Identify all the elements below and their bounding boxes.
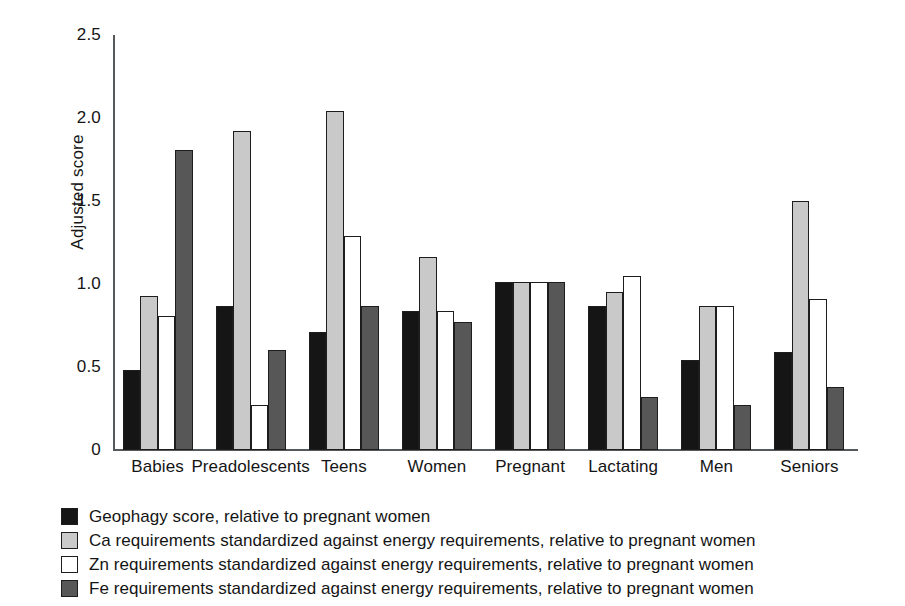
bar [454, 322, 472, 450]
y-axis-line [113, 35, 115, 451]
y-tick-label: 2.5 [41, 26, 101, 43]
bar [326, 111, 344, 450]
bar-chart-figure: Adjusted score 00.51.01.52.02.5 BabiesPr… [0, 0, 905, 606]
bar [734, 405, 752, 450]
bar [792, 201, 810, 450]
bar [175, 150, 193, 450]
bar [437, 311, 455, 450]
bar [309, 332, 327, 450]
y-tick-label: 2.0 [41, 109, 101, 126]
x-tick-label: Seniors [719, 457, 899, 477]
bar [588, 306, 606, 450]
chart-legend: Geophagy score, relative to pregnant wom… [61, 504, 896, 600]
bar [681, 360, 699, 450]
bar [513, 282, 531, 450]
bar [809, 299, 827, 450]
legend-swatch-icon [61, 556, 78, 573]
bar [402, 311, 420, 450]
legend-item: Zn requirements standardized against ene… [61, 552, 896, 576]
bar [548, 282, 566, 450]
bar [140, 296, 158, 450]
bar [361, 306, 379, 450]
bar-group [495, 35, 565, 450]
bar-group [588, 35, 658, 450]
bar [251, 405, 269, 450]
y-tick-label: 1.0 [41, 275, 101, 292]
bar [606, 292, 624, 450]
bar [530, 282, 548, 450]
bar-group [402, 35, 472, 450]
bar [699, 306, 717, 450]
legend-label: Zn requirements standardized against ene… [89, 555, 754, 574]
bar-group [123, 35, 193, 450]
bar-group [774, 35, 844, 450]
legend-label: Fe requirements standardized against ene… [89, 579, 754, 598]
bar [774, 352, 792, 450]
bar [344, 236, 362, 450]
legend-label: Ca requirements standardized against ene… [89, 531, 756, 550]
bar [123, 370, 141, 450]
bar [623, 276, 641, 450]
bar-group [681, 35, 751, 450]
y-tick-label: 1.5 [41, 192, 101, 209]
bar-group [216, 35, 286, 450]
bar [158, 316, 176, 450]
legend-item: Fe requirements standardized against ene… [61, 576, 896, 600]
bar [827, 387, 845, 450]
y-tick-label: 0.5 [41, 358, 101, 375]
bar [233, 131, 251, 450]
bar-group [309, 35, 379, 450]
bar [216, 306, 234, 450]
bar [419, 257, 437, 450]
bar [268, 350, 286, 450]
legend-label: Geophagy score, relative to pregnant wom… [89, 507, 430, 526]
legend-item: Geophagy score, relative to pregnant wom… [61, 504, 896, 528]
legend-swatch-icon [61, 532, 78, 549]
bar [716, 306, 734, 450]
bar [641, 397, 659, 450]
legend-swatch-icon [61, 580, 78, 597]
y-tick-label: 0 [41, 441, 101, 458]
legend-swatch-icon [61, 508, 78, 525]
bar [495, 282, 513, 450]
legend-item: Ca requirements standardized against ene… [61, 528, 896, 552]
